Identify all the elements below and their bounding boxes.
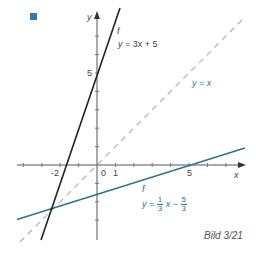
line-identity-equation-lhs: y <box>192 78 197 88</box>
x-tick-label-neg2: -2 <box>51 168 59 178</box>
const-denominator: 3 <box>181 205 187 213</box>
coef-denominator: 3 <box>157 205 163 213</box>
line-f-bar-equation-eq: = <box>149 199 154 209</box>
line-f <box>41 8 120 240</box>
x-axis-label: x <box>234 170 239 180</box>
line-f-bar-const-fraction: 5 3 <box>181 196 187 213</box>
y-axis-arrow-icon <box>94 11 100 19</box>
y-tick-label-5: 5 <box>87 68 92 78</box>
line-f-equation-rhs: = 3x + 5 <box>125 39 158 49</box>
y-axis-label: y <box>87 12 92 22</box>
line-identity-equation-rhs: = x <box>199 78 211 88</box>
line-f-equation-lhs: y <box>118 39 123 49</box>
line-f-name: f <box>117 26 120 36</box>
line-f-bar-coef-fraction: 1 3 <box>157 196 163 213</box>
line-f-bar-equation-lhs: y <box>142 199 147 209</box>
figure-caption: Bild 3/21 <box>204 231 243 241</box>
x-axis-arrow-icon <box>238 162 246 168</box>
line-f-bar-var: x <box>166 199 171 209</box>
x-tick-label-5: 5 <box>187 168 192 178</box>
line-f-bar-equation: y = 1 3 x − 5 3 <box>142 196 187 213</box>
x-tick-label-1: 1 <box>113 168 118 178</box>
line-f-bar-minus: − <box>173 199 178 209</box>
line-identity-equation: y = x <box>192 78 211 88</box>
line-f-equation: y = 3x + 5 <box>118 39 158 49</box>
x-tick-label-0: 0 <box>101 168 106 178</box>
line-f-bar-name: f̄ <box>142 184 145 194</box>
